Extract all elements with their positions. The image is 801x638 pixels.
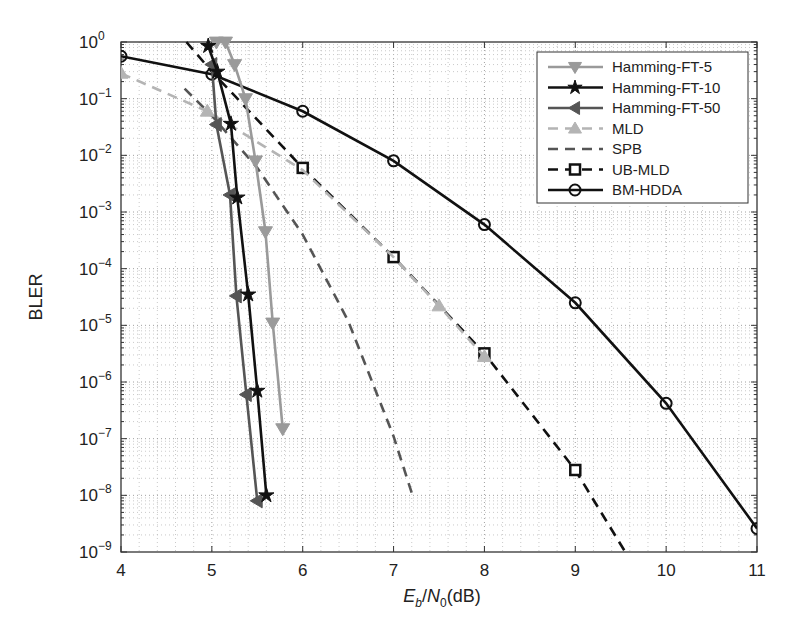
- triangle-down-marker: [248, 156, 262, 168]
- y-tick-label: 10−6: [79, 369, 112, 392]
- series-line: [208, 46, 266, 495]
- triangle-down-marker: [238, 94, 252, 106]
- x-tick-label: 9: [571, 561, 580, 580]
- legend-label: Hamming-FT-10: [612, 79, 720, 96]
- triangle-up-marker: [114, 66, 128, 78]
- legend-label: Hamming-FT-50: [612, 99, 720, 116]
- y-tick-label: 10−9: [79, 539, 112, 562]
- x-axis-title: Eb/N0(dB): [403, 586, 480, 610]
- series-hamming-ft-5: [209, 37, 289, 436]
- legend-label: BM-HDDA: [612, 181, 682, 198]
- square-marker: [570, 165, 580, 175]
- y-tick-label: 100: [79, 29, 105, 52]
- y-tick-labels: 10010−110−210−310−410−510−610−710−810−9: [79, 29, 112, 562]
- legend-label: UB-MLD: [612, 161, 670, 178]
- x-tick-label: 10: [657, 561, 676, 580]
- y-tick-label: 10−3: [79, 199, 112, 222]
- x-tick-label: 7: [389, 561, 398, 580]
- x-tick-label: 6: [298, 561, 307, 580]
- bler-chart: 4567891011 10010−110−210−310−410−510−610…: [0, 0, 801, 638]
- y-tick-label: 10−8: [79, 482, 112, 505]
- legend-label: SPB: [612, 140, 642, 157]
- y-tick-label: 10−5: [79, 312, 112, 335]
- x-tick-label: 11: [748, 561, 766, 580]
- square-marker: [570, 465, 580, 475]
- triangle-down-marker: [258, 227, 272, 239]
- triangle-down-marker: [276, 424, 290, 436]
- legend-label: Hamming-FT-5: [612, 58, 712, 75]
- x-tick-label: 5: [207, 561, 216, 580]
- legend-label: MLD: [612, 120, 644, 137]
- y-tick-label: 10−1: [79, 86, 112, 109]
- x-tick-label: 4: [116, 561, 125, 580]
- x-tick-label: 8: [480, 561, 489, 580]
- triangle-down-marker: [228, 60, 242, 72]
- x-tick-labels: 4567891011: [116, 561, 766, 580]
- y-tick-label: 10−4: [79, 256, 112, 279]
- y-axis-title: BLER: [26, 273, 46, 320]
- y-tick-label: 10−2: [79, 142, 112, 165]
- legend: Hamming-FT-5Hamming-FT-10Hamming-FT-50ML…: [537, 52, 748, 203]
- y-tick-label: 10−7: [79, 426, 112, 449]
